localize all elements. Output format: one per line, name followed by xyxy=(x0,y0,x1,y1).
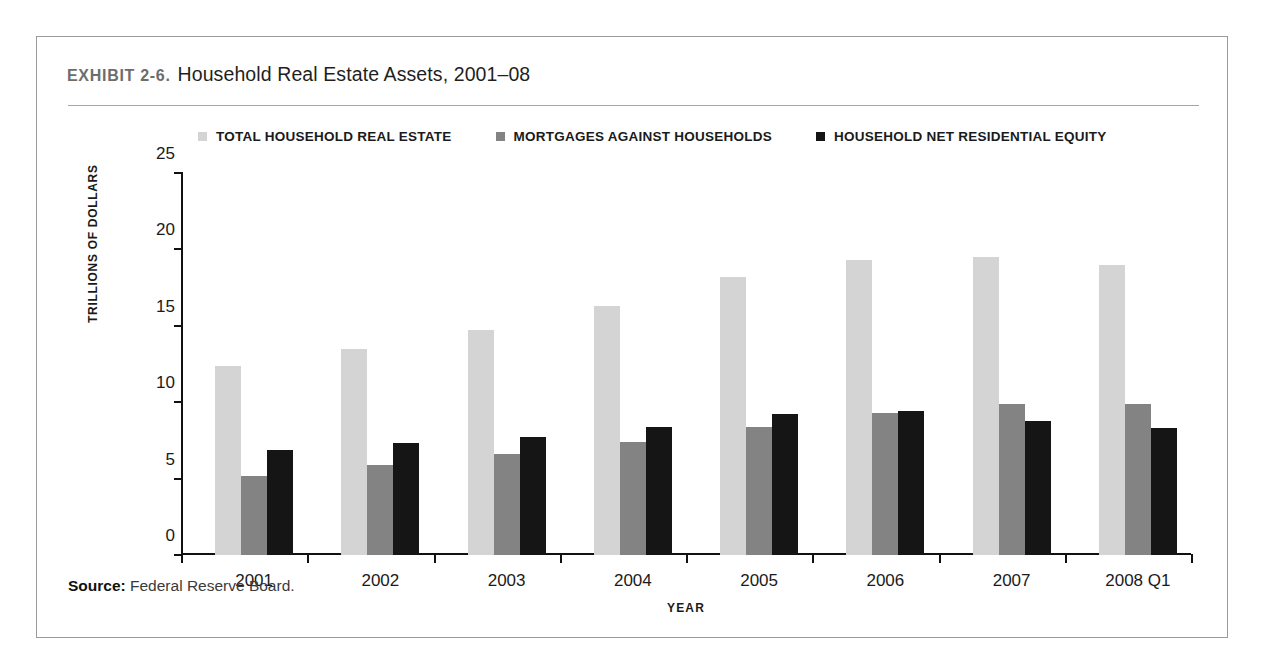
x-tick-mark xyxy=(181,554,183,563)
chart-legend: TOTAL HOUSEHOLD REAL ESTATEMORTGAGES AGA… xyxy=(198,129,1107,144)
x-tick-label: 2004 xyxy=(573,571,693,591)
bar xyxy=(594,306,620,555)
y-axis-label: TRILLIONS OF DOLLARS xyxy=(86,164,100,323)
x-tick-label: 2008 Q1 xyxy=(1078,571,1198,591)
bar xyxy=(746,427,772,555)
bar xyxy=(341,349,367,555)
y-tick-mark xyxy=(174,401,183,403)
y-tick-label: 25 xyxy=(135,144,175,164)
bar-group-2003: 2003 xyxy=(468,173,546,555)
bar xyxy=(620,442,646,555)
x-axis-label: YEAR xyxy=(181,601,1191,615)
y-tick-label: 0 xyxy=(135,526,175,546)
legend-item-1: MORTGAGES AGAINST HOUSEHOLDS xyxy=(496,129,773,144)
y-tick-label: 5 xyxy=(135,450,175,470)
legend-label: MORTGAGES AGAINST HOUSEHOLDS xyxy=(514,129,773,144)
legend-item-2: HOUSEHOLD NET RESIDENTIAL EQUITY xyxy=(816,129,1107,144)
bar xyxy=(772,414,798,555)
exhibit-page: EXHIBIT 2-6.Household Real Estate Assets… xyxy=(0,0,1266,664)
x-tick-mark xyxy=(686,554,688,563)
exhibit-number-label: EXHIBIT 2-6. xyxy=(67,67,171,84)
x-tick-label: 2006 xyxy=(825,571,945,591)
bar xyxy=(1151,428,1177,555)
bar xyxy=(720,277,746,555)
source-text: Federal Reserve Board. xyxy=(130,577,295,594)
y-tick-label: 20 xyxy=(135,220,175,240)
legend-swatch-icon xyxy=(816,132,825,141)
bar-group-2004: 2004 xyxy=(594,173,672,555)
x-tick-mark xyxy=(939,554,941,563)
bar-group-2005: 2005 xyxy=(720,173,798,555)
x-tick-mark xyxy=(1065,554,1067,563)
y-tick-mark xyxy=(174,478,183,480)
y-axis-line xyxy=(181,173,183,555)
y-tick-mark xyxy=(174,248,183,250)
y-tick-mark xyxy=(174,325,183,327)
x-tick-mark xyxy=(307,554,309,563)
legend-label: TOTAL HOUSEHOLD REAL ESTATE xyxy=(216,129,452,144)
bar-group-2008-Q1: 2008 Q1 xyxy=(1099,173,1177,555)
y-tick-label: 10 xyxy=(135,373,175,393)
legend-item-0: TOTAL HOUSEHOLD REAL ESTATE xyxy=(198,129,452,144)
bar xyxy=(520,437,546,555)
bar xyxy=(241,476,267,555)
bar xyxy=(872,413,898,555)
x-tick-mark xyxy=(560,554,562,563)
bar xyxy=(999,404,1025,555)
bar xyxy=(367,465,393,555)
x-tick-label: 2005 xyxy=(699,571,819,591)
bar xyxy=(468,330,494,555)
legend-swatch-icon xyxy=(496,132,505,141)
bar xyxy=(646,427,672,555)
x-tick-mark xyxy=(434,554,436,563)
bar xyxy=(846,260,872,555)
bar xyxy=(494,454,520,555)
source-label: Source: xyxy=(68,577,126,594)
exhibit-title-text: Household Real Estate Assets, 2001–08 xyxy=(178,63,531,85)
legend-label: HOUSEHOLD NET RESIDENTIAL EQUITY xyxy=(834,129,1107,144)
chart-area: TOTAL HOUSEHOLD REAL ESTATEMORTGAGES AGA… xyxy=(68,121,1203,569)
bar-group-2006: 2006 xyxy=(846,173,924,555)
exhibit-frame: EXHIBIT 2-6.Household Real Estate Assets… xyxy=(36,36,1228,638)
bar xyxy=(267,450,293,555)
y-tick-mark xyxy=(174,172,183,174)
source-note: Source: Federal Reserve Board. xyxy=(68,577,295,595)
x-tick-mark xyxy=(1191,554,1193,563)
x-tick-mark xyxy=(812,554,814,563)
x-tick-label: 2002 xyxy=(320,571,440,591)
bar xyxy=(973,257,999,555)
bar-group-2007: 2007 xyxy=(973,173,1051,555)
x-tick-label: 2007 xyxy=(952,571,1072,591)
title-divider xyxy=(68,105,1199,106)
bar xyxy=(1125,404,1151,555)
legend-swatch-icon xyxy=(198,132,207,141)
page-title: EXHIBIT 2-6.Household Real Estate Assets… xyxy=(67,63,530,86)
bar-group-2001: 2001 xyxy=(215,173,293,555)
bar xyxy=(1025,421,1051,555)
y-tick-label: 15 xyxy=(135,297,175,317)
bar xyxy=(215,366,241,555)
bar xyxy=(1099,265,1125,555)
bar xyxy=(393,443,419,555)
plot-area: TRILLIONS OF DOLLARS 0510152025 20012002… xyxy=(181,173,1191,555)
bar xyxy=(898,411,924,555)
bar-group-2002: 2002 xyxy=(341,173,419,555)
x-tick-label: 2003 xyxy=(447,571,567,591)
